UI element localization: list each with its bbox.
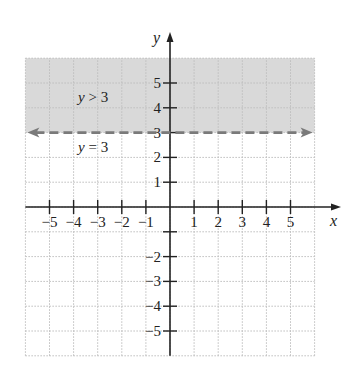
region-label-var: y bbox=[76, 89, 85, 105]
y-tick-label: −3 bbox=[145, 273, 161, 289]
x-tick-label: −4 bbox=[66, 214, 82, 230]
line-label-var: y bbox=[76, 139, 85, 155]
x-tick-label: 4 bbox=[263, 214, 271, 230]
y-tick-label: 1 bbox=[154, 174, 162, 190]
region-label: y > 3 bbox=[76, 89, 108, 105]
x-tick-label: −3 bbox=[90, 214, 106, 230]
x-tick-label: 2 bbox=[214, 214, 222, 230]
y-tick-label: 4 bbox=[154, 100, 162, 116]
line-label: y = 3 bbox=[76, 139, 108, 155]
region-label-rest: > 3 bbox=[85, 89, 108, 105]
y-tick-label: 5 bbox=[154, 75, 162, 91]
line-label-rest: = 3 bbox=[85, 139, 108, 155]
y-tick-label: 3 bbox=[154, 125, 162, 141]
x-tick-label: −1 bbox=[138, 214, 154, 230]
x-tick-label: −2 bbox=[114, 214, 130, 230]
y-tick-label: −2 bbox=[145, 249, 161, 265]
x-tick-label: 1 bbox=[190, 214, 198, 230]
x-tick-label: 3 bbox=[239, 214, 247, 230]
x-tick-label: 5 bbox=[287, 214, 295, 230]
y-tick-label: −5 bbox=[145, 323, 161, 339]
y-tick-label: 2 bbox=[154, 149, 162, 165]
y-tick-label: −4 bbox=[145, 298, 161, 314]
x-tick-label: −5 bbox=[42, 214, 58, 230]
y-axis-label: y bbox=[151, 29, 161, 47]
inequality-graph: −5−4−3−2−112345−5−4−3−212345 x y y > 3 y… bbox=[0, 0, 354, 380]
x-axis-label: x bbox=[329, 212, 337, 229]
